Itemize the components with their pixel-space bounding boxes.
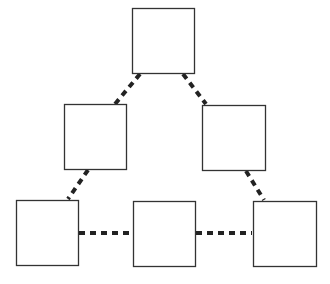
edge-mid-right-to-bottom-right [246, 171, 264, 200]
edge-top-to-mid-left [115, 74, 140, 104]
node-mid-right [203, 106, 266, 171]
node-top [133, 9, 195, 74]
node-bottom-left [17, 201, 79, 266]
node-bottom-middle [134, 202, 196, 267]
network-diagram [0, 0, 330, 284]
node-bottom-right [254, 202, 317, 267]
edge-top-to-mid-right [183, 74, 206, 104]
node-mid-left [65, 105, 127, 170]
edge-mid-left-to-bottom-left [68, 170, 88, 199]
node-boxes [17, 9, 317, 267]
